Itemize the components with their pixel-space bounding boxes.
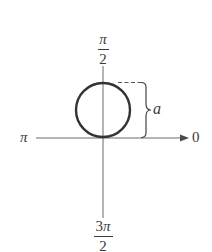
label-pi-over-2-numerator: π xyxy=(99,32,107,47)
label-pi: π xyxy=(20,130,28,145)
label-zero: 0 xyxy=(192,130,200,145)
label-3pi-over-2: 3π 2 xyxy=(92,219,114,252)
numerator-symbol: π xyxy=(103,218,111,234)
arrow-right-icon xyxy=(180,135,189,142)
numerator-digit: 3 xyxy=(95,218,103,234)
brace-icon xyxy=(141,83,151,138)
fraction-bar xyxy=(98,49,109,50)
label-3pi-over-2-denominator: 2 xyxy=(99,239,107,252)
label-a: a xyxy=(153,101,161,117)
fraction-bar xyxy=(94,236,113,237)
label-3pi-over-2-numerator: 3π xyxy=(95,219,110,234)
label-pi-over-2: π 2 xyxy=(96,32,110,67)
label-pi-over-2-denominator: 2 xyxy=(99,52,107,67)
